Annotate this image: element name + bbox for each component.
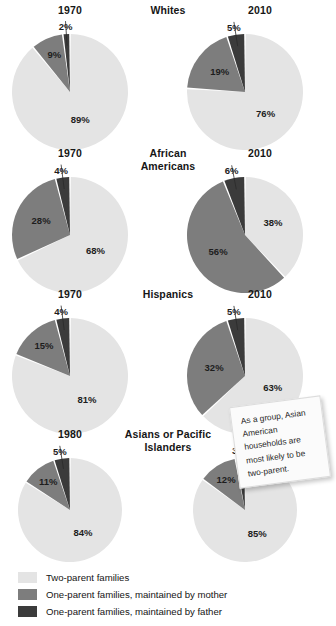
legend-item: Two-parent families bbox=[18, 569, 318, 586]
pie-1-1-father-label: 6% bbox=[225, 165, 239, 176]
pie-row: 89%9%2%76%19%5% bbox=[0, 30, 336, 142]
year-label-right: 2010 bbox=[200, 4, 320, 17]
pie-1-0-mother-label: 28% bbox=[32, 215, 52, 226]
section-header-row: 1970AfricanAmericans2010 bbox=[0, 143, 336, 173]
pie-row: 68%28%4%38%56%6% bbox=[0, 173, 336, 285]
pie-0-1-father-label: 5% bbox=[227, 22, 241, 33]
group-title-line: Americans bbox=[105, 160, 231, 173]
pie-chart-african-americans-1970: 68%28%4% bbox=[0, 173, 145, 293]
pie-3-1-mother-label: 12% bbox=[217, 474, 237, 485]
legend-swatch-mother bbox=[18, 589, 37, 600]
group-title-line: Islanders bbox=[105, 441, 231, 454]
legend-item-label: One-parent families, maintained by fathe… bbox=[46, 606, 222, 617]
legend-swatch-two-parent bbox=[18, 572, 37, 583]
pie-1-0-two-parent-label: 68% bbox=[86, 245, 106, 256]
legend-item: One-parent families, maintained by fathe… bbox=[18, 603, 318, 620]
chart-section-whites: 1970Whites201089%9%2%76%19%5% bbox=[0, 0, 336, 142]
pie-chart-whites-1970: 89%9%2% bbox=[0, 30, 145, 150]
pie-1-1-two-parent-label: 38% bbox=[263, 217, 283, 228]
callout-note: As a group, Asian American households ar… bbox=[229, 395, 331, 488]
pie-2-1-mother-label: 32% bbox=[205, 362, 225, 373]
pie-2-1-two-parent-label: 63% bbox=[263, 382, 283, 393]
pie-3-0-father-label: 5% bbox=[53, 446, 67, 457]
pie-chart-african-americans-2010: 38%56%6% bbox=[170, 173, 320, 293]
year-label-right: 2010 bbox=[200, 288, 320, 301]
pie-2-1-father-label: 5% bbox=[227, 306, 241, 317]
pie-0-0-two-parent-label: 89% bbox=[71, 114, 91, 125]
pie-0-1-two-parent-label: 76% bbox=[256, 108, 276, 119]
pie-2-0-two-parent-label: 81% bbox=[77, 394, 97, 405]
pie-2-0-father-label: 4% bbox=[54, 306, 68, 317]
legend-item: One-parent families, maintained by mothe… bbox=[18, 586, 318, 603]
pie-0-1-mother-label: 19% bbox=[210, 66, 230, 77]
pie-0-0-father-label: 2% bbox=[59, 21, 73, 32]
section-header-row: 1970Hispanics2010 bbox=[0, 284, 336, 314]
pie-chart-whites-2010: 76%19%5% bbox=[170, 30, 320, 150]
pie-3-1-two-parent-label: 85% bbox=[248, 528, 268, 539]
year-label-right: 2010 bbox=[200, 147, 320, 160]
legend-swatch-father bbox=[18, 606, 37, 617]
legend-item-label: One-parent families, maintained by mothe… bbox=[46, 589, 227, 600]
legend-item-label: Two-parent families bbox=[46, 572, 129, 583]
pie-3-0-mother-label: 11% bbox=[39, 476, 58, 487]
callout-note-text: As a group, Asian American households ar… bbox=[240, 405, 322, 480]
pie-1-0-father-label: 4% bbox=[54, 165, 68, 176]
section-header-row: 1970Whites2010 bbox=[0, 0, 336, 30]
pie-3-0-two-parent-label: 84% bbox=[73, 527, 93, 538]
pie-1-1-mother-label: 56% bbox=[209, 246, 229, 257]
pie-0-0-mother-label: 9% bbox=[47, 49, 61, 60]
chart-section-african-americans: 1970AfricanAmericans201068%28%4%38%56%6% bbox=[0, 143, 336, 285]
legend: Two-parent familiesOne-parent families, … bbox=[18, 569, 318, 620]
pie-chart-hispanics-1970: 81%15%4% bbox=[0, 314, 145, 434]
pie-chart-asians-or-pacific-islanders-1980: 84%11%5% bbox=[0, 454, 145, 574]
pie-2-0-mother-label: 15% bbox=[34, 340, 54, 351]
pie-0-0-two-parent-slice bbox=[12, 34, 128, 150]
